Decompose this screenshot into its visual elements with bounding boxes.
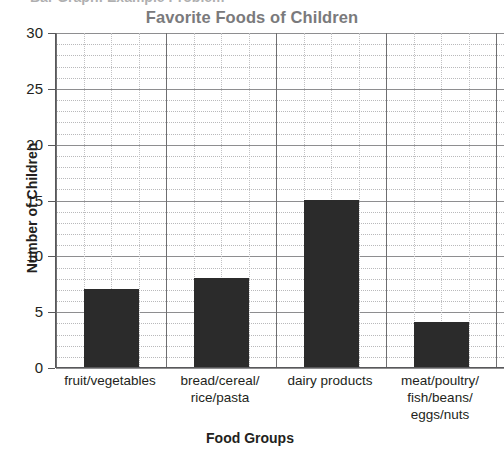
x-axis-category-label: dairy products <box>270 372 390 389</box>
bar <box>414 322 469 367</box>
bar <box>194 278 249 367</box>
clipped-page-heading-text: Bar Graph: Example Problem <box>0 0 504 5</box>
gridline-major-horizontal <box>56 368 504 369</box>
plot-area <box>55 33 504 368</box>
x-axis-category-label-line: dairy products <box>270 372 390 389</box>
x-axis-category-label-line: fruit/vegetables <box>50 372 170 389</box>
x-axis-category-label: fruit/vegetables <box>50 372 170 389</box>
y-axis-tick-label: 10 <box>0 248 43 263</box>
x-axis-title: Food Groups <box>55 430 445 446</box>
x-axis-category-label-line: bread/cereal/ <box>160 372 280 389</box>
y-axis-tick <box>48 89 55 90</box>
y-axis-tick <box>48 33 55 34</box>
x-axis-category-label-line: fish/beans/ <box>380 389 500 406</box>
y-axis-tick-label: 30 <box>0 25 43 40</box>
bar <box>304 200 359 368</box>
y-axis-tick <box>48 312 55 313</box>
y-axis-tick-label: 25 <box>0 81 43 96</box>
y-axis-tick-label: 20 <box>0 137 43 152</box>
y-axis-tick-label: 0 <box>0 360 43 375</box>
x-axis-category-label: bread/cereal/rice/pasta <box>160 372 280 406</box>
x-axis-category-label: meat/poultry/fish/beans/eggs/nuts <box>380 372 500 423</box>
x-axis-category-label-line: eggs/nuts <box>380 406 500 423</box>
chart-title: Favorite Foods of Children <box>0 8 504 27</box>
y-axis-tick <box>48 201 55 202</box>
y-axis-tick <box>48 145 55 146</box>
y-axis-tick-label: 5 <box>0 304 43 319</box>
x-axis-category-label-line: rice/pasta <box>160 389 280 406</box>
y-axis-tick-label: 15 <box>0 193 43 208</box>
clipped-page-heading: Bar Graph: Example Problem <box>0 0 504 5</box>
y-axis-tick <box>48 368 55 369</box>
y-axis-tick <box>48 256 55 257</box>
bar <box>84 289 139 367</box>
x-axis-category-label-line: meat/poultry/ <box>380 372 500 389</box>
bars-group <box>56 33 504 367</box>
